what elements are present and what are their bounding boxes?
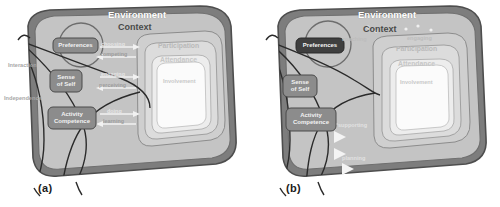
panel-a-graphic: [0, 0, 250, 207]
figure-canvas: Environment Context Participation Attend…: [0, 0, 500, 207]
box-activity-competence-a: [48, 107, 96, 129]
ring-core-b: [396, 65, 449, 130]
panel-b: Environment Context Participation Attend…: [250, 0, 500, 207]
panel-a: Environment Context Participation Attend…: [0, 0, 250, 207]
box-sense-of-self-b: [283, 75, 317, 97]
panel-b-graphic: [250, 0, 500, 207]
box-preferences-a: [53, 38, 98, 53]
panel-caption-b: (b): [286, 182, 301, 194]
panel-caption-a: (a): [38, 182, 52, 194]
ring-core-a: [157, 62, 206, 128]
box-preferences-b: [296, 38, 344, 53]
box-activity-competence-b: [286, 108, 336, 131]
box-sense-of-self-a: [50, 70, 82, 92]
